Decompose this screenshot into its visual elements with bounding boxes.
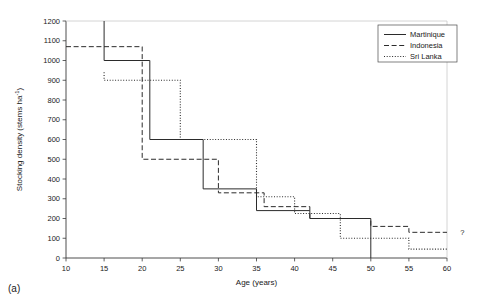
y-tick-label: 400 — [47, 175, 60, 184]
chart-legend[interactable]: MartiniqueIndonesiaSri Lanka — [378, 25, 457, 62]
y-tick-label: 900 — [47, 76, 60, 85]
stocking-density-chart: 0100200300400500600700800900100011001200… — [0, 0, 481, 304]
x-axis-title: Age (years) — [236, 278, 278, 287]
figure-container: 0100200300400500600700800900100011001200… — [0, 0, 481, 304]
y-tick-label: 1200 — [43, 17, 60, 26]
y-tick-label: 1000 — [43, 56, 60, 65]
legend-label-martinique: Martinique — [410, 30, 445, 39]
x-tick-label: 10 — [62, 264, 70, 273]
y-axis-title-tail: ) — [15, 88, 24, 91]
x-tick-label: 30 — [214, 264, 222, 273]
y-tick-label: 500 — [47, 155, 60, 164]
annotation-question-mark: ? — [460, 228, 464, 237]
x-tick-label: 20 — [138, 264, 146, 273]
x-tick-label: 25 — [176, 264, 184, 273]
chart-annotations: ? — [460, 228, 464, 237]
x-tick-label: 45 — [329, 264, 337, 273]
x-tick-label: 15 — [100, 264, 108, 273]
y-tick-label: 300 — [47, 194, 60, 203]
x-tick-label: 40 — [290, 264, 298, 273]
y-tick-label: 0 — [56, 254, 60, 263]
x-tick-label: 50 — [367, 264, 375, 273]
figure-caption: (a) — [8, 283, 20, 294]
y-axis-title-main: Stocking density (stems ha — [15, 95, 24, 191]
legend-label-sri-lanka: Sri Lanka — [410, 52, 443, 61]
y-axis-title: Stocking density (stems ha-1) — [14, 88, 24, 192]
y-tick-label: 100 — [47, 234, 60, 243]
x-tick-label: 55 — [405, 264, 413, 273]
y-tick-label: 1100 — [44, 36, 60, 45]
x-tick-label: 35 — [252, 264, 260, 273]
legend-label-indonesia: Indonesia — [410, 41, 443, 50]
y-tick-label: 800 — [47, 96, 60, 105]
y-tick-label: 600 — [47, 135, 60, 144]
y-tick-label: 200 — [47, 214, 60, 223]
x-tick-label: 60 — [443, 264, 451, 273]
y-tick-label: 700 — [47, 115, 60, 124]
